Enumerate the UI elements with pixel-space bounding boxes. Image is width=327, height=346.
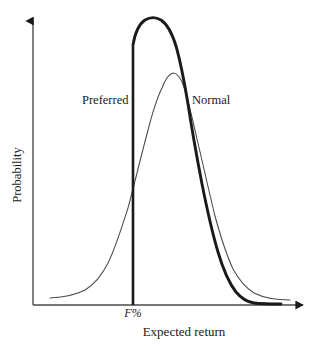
distribution-plot: [0, 0, 327, 346]
x-axis-title: Expected return: [143, 325, 226, 338]
preferred-curve-label: Preferred: [82, 94, 129, 107]
threshold-tick-label: F%: [124, 307, 141, 319]
probability-distribution-figure: Preferred Normal F% Expected return Prob…: [0, 0, 327, 346]
normal-distribution-curve: [50, 73, 290, 300]
axes-group: [33, 21, 303, 305]
preferred-distribution-curve: [133, 18, 281, 304]
y-axis-title: Probability: [11, 147, 24, 203]
normal-curve-label: Normal: [192, 94, 230, 107]
